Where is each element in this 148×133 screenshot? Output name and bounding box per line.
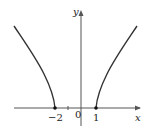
point-neg2 [53,106,57,110]
right-curve [96,26,137,108]
tick-label-neg2: −2 [48,112,63,123]
tick-label-1: 1 [93,112,99,123]
x-axis-label: x [135,112,141,123]
x-axis-arrow-icon [135,106,141,111]
y-axis-label: y [72,6,79,17]
left-curve [14,26,55,108]
origin-label: 0 [75,109,81,120]
point-1 [94,106,98,110]
y-axis-arrow-icon [79,10,84,16]
graph: y x −2 0 1 [0,0,148,133]
